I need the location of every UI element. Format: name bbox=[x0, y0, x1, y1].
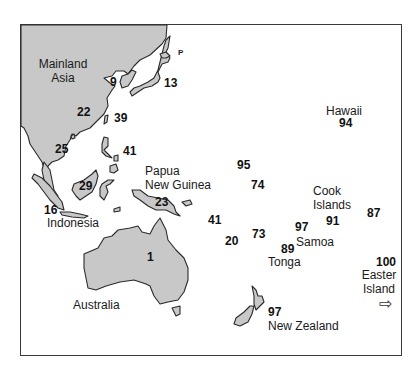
label-line: Asia bbox=[34, 71, 92, 85]
label-line: Cook bbox=[313, 184, 351, 198]
value-cook-islands: 91 bbox=[326, 215, 339, 228]
mainland-asia-shape bbox=[21, 25, 167, 174]
value-philippines: 41 bbox=[123, 145, 136, 158]
value-fiji: 73 bbox=[252, 228, 265, 241]
sulawesi-shape bbox=[100, 180, 114, 200]
taiwan-shape bbox=[104, 115, 108, 124]
label-line: New Guinea bbox=[145, 178, 211, 192]
value-australia: 1 bbox=[147, 251, 154, 264]
value-taiwan: 39 bbox=[114, 112, 127, 125]
value-tonga: 89 bbox=[281, 243, 294, 256]
value-korea: 9 bbox=[110, 76, 117, 89]
value-new-zealand: 97 bbox=[268, 306, 281, 319]
tasmania-shape bbox=[172, 306, 180, 316]
philippines-shape bbox=[102, 137, 112, 158]
value-society-islands: 87 bbox=[367, 207, 380, 220]
label-new-zealand: New Zealand bbox=[268, 319, 339, 333]
australia-shape bbox=[84, 218, 188, 304]
label-mainland-asia: Mainland Asia bbox=[34, 57, 92, 85]
arrow-right-icon: ⇨ bbox=[379, 297, 392, 311]
label-tonga: Tonga bbox=[268, 255, 301, 269]
value-samoa: 97 bbox=[295, 221, 308, 234]
value-melanesia-north: 74 bbox=[251, 179, 264, 192]
value-new-guinea: 23 bbox=[155, 196, 168, 209]
value-hawaii: 94 bbox=[339, 117, 352, 130]
value-micronesia: 95 bbox=[237, 159, 250, 172]
value-sumatra-java: 16 bbox=[44, 204, 57, 217]
label-papua-new-guinea: Papua New Guinea bbox=[145, 164, 211, 192]
value-vietnam: 25 bbox=[55, 143, 68, 156]
label-line: Island bbox=[360, 282, 398, 296]
label-line: Islands bbox=[313, 198, 351, 212]
value-south-china: 22 bbox=[77, 106, 90, 119]
label-indonesia: Indonesia bbox=[47, 216, 99, 230]
label-line: Easter bbox=[360, 268, 398, 282]
value-easter-island: 100 bbox=[376, 256, 396, 269]
new-zealand-south-shape bbox=[234, 306, 254, 326]
value-solomons: 41 bbox=[208, 214, 221, 227]
label-cook-islands: Cook Islands bbox=[313, 184, 351, 212]
small-p-mark: P bbox=[178, 46, 183, 60]
label-easter-island: Easter Island bbox=[360, 268, 398, 296]
label-samoa: Samoa bbox=[296, 235, 334, 249]
value-borneo: 29 bbox=[79, 180, 92, 193]
label-australia: Australia bbox=[73, 298, 120, 312]
label-line: Papua bbox=[145, 164, 211, 178]
value-japan: 13 bbox=[164, 77, 177, 90]
value-vanuatu: 20 bbox=[225, 235, 238, 248]
label-line: Mainland bbox=[34, 57, 92, 71]
